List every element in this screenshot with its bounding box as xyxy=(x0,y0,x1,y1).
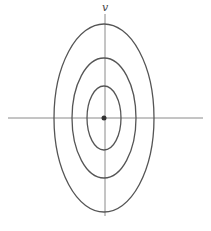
center-point xyxy=(102,116,107,121)
axis-label-v: v xyxy=(102,1,108,14)
contour-diagram xyxy=(0,0,211,231)
